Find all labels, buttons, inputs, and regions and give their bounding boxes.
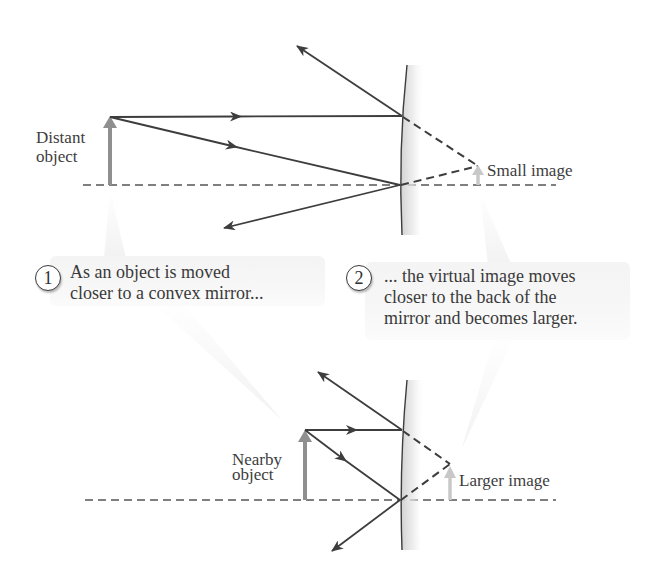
callout-2-line1: ... the virtual image moves <box>384 266 578 287</box>
bottom-incident-ray-axis <box>305 430 400 500</box>
bottom-reflected-ray-1 <box>318 372 402 430</box>
bottom-object-arrow-icon <box>298 430 312 500</box>
distant-object-label-line2: object <box>36 147 85 166</box>
distant-object-label: Distant object <box>36 128 85 166</box>
callout-1-line1: As an object is moved <box>70 262 263 283</box>
callout-1-pointer-up <box>104 190 126 258</box>
top-image-arrow-icon <box>472 165 484 185</box>
callout-2-pointer-up <box>480 192 512 266</box>
top-incident-ray-parallel <box>110 116 402 117</box>
callout-2-line3: mirror and becomes larger. <box>384 308 578 329</box>
callout-2-pointer-down <box>462 335 515 448</box>
nearby-object-label: Nearby object <box>232 452 282 482</box>
top-reflected-ray-2 <box>224 185 400 228</box>
top-object-arrow-icon <box>103 116 117 185</box>
callout-1-pointer-down <box>150 300 282 420</box>
top-reflected-ray-1 <box>297 46 402 116</box>
callout-1-text: As an object is moved closer to a convex… <box>70 262 263 304</box>
callout-2-line2: closer to the back of the <box>384 287 578 308</box>
bottom-reflected-ray-2 <box>332 500 400 551</box>
bottom-panel <box>85 372 556 551</box>
small-image-label: Small image <box>487 161 572 180</box>
callout-2-text: ... the virtual image moves closer to th… <box>384 266 578 329</box>
callout-1-line2: closer to a convex mirror... <box>70 283 263 304</box>
step-2-badge: 2 <box>346 265 372 291</box>
top-incident-ray-axis <box>110 117 400 185</box>
bottom-image-arrow-icon <box>444 466 456 500</box>
larger-image-label: Larger image <box>459 471 550 490</box>
distant-object-label-line1: Distant <box>36 128 85 147</box>
step-1-badge: 1 <box>35 265 61 291</box>
nearby-object-label-line2: object <box>232 467 282 482</box>
